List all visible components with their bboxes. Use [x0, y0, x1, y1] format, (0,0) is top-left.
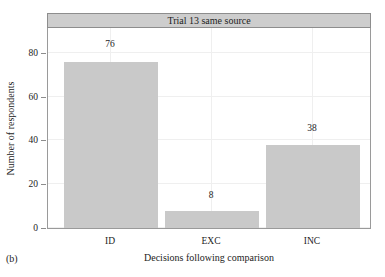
y-tick-mark — [41, 228, 46, 229]
panel-title-text: Trial 13 same source — [167, 16, 250, 26]
bar-value-label-inc: 38 — [265, 124, 359, 134]
y-tick-label: 80 — [12, 49, 38, 59]
y-tick-label: 40 — [12, 136, 38, 146]
bar-exc — [165, 211, 259, 229]
subfigure-label: (b) — [6, 254, 18, 264]
x-tick-label-inc: INC — [304, 237, 320, 247]
y-tick-mark — [41, 53, 46, 54]
bar-inc — [266, 145, 360, 228]
figure-panel-b: Trial 13 same source 76 8 38 Number of r… — [0, 0, 385, 277]
bar-value-label-exc: 8 — [164, 191, 258, 201]
y-tick-label-group: 0 20 40 60 80 — [12, 0, 38, 277]
panel-title-strip: Trial 13 same source — [47, 13, 371, 28]
y-tick-label: 60 — [12, 93, 38, 103]
x-axis-title: Decisions following comparison — [47, 253, 371, 263]
y-tick-mark — [41, 184, 46, 185]
x-tick-label-exc: EXC — [202, 237, 221, 247]
y-tick-label: 0 — [12, 224, 38, 234]
y-tick-mark — [41, 140, 46, 141]
bar-id — [64, 62, 158, 228]
y-tick-mark — [41, 97, 46, 98]
x-tick-label-id: ID — [105, 237, 115, 247]
bar-value-label-id: 76 — [63, 40, 157, 50]
y-tick-label: 20 — [12, 180, 38, 190]
gridline-horizontal — [48, 52, 370, 53]
